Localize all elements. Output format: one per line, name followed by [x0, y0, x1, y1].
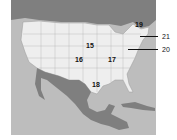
- map-label-15: 15: [86, 42, 94, 49]
- map-label-19: 19: [135, 21, 143, 28]
- caribbean-shape: [121, 102, 155, 111]
- callout-line-20: [128, 49, 158, 50]
- map-label-16: 16: [75, 56, 83, 63]
- map-label-17: 17: [108, 56, 116, 63]
- callout-line-21: [140, 36, 158, 37]
- callout-label-20: 20: [162, 46, 170, 53]
- map-label-18: 18: [92, 81, 100, 88]
- callout-label-21: 21: [162, 33, 170, 40]
